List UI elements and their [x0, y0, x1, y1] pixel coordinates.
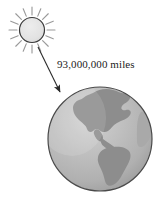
distance-label: 93,000,000 miles — [57, 58, 135, 71]
sun-icon — [20, 18, 45, 43]
earth-icon — [38, 80, 153, 191]
figure-canvas — [0, 0, 160, 203]
sun-earth-distance-figure: 93,000,000 miles — [0, 0, 160, 203]
